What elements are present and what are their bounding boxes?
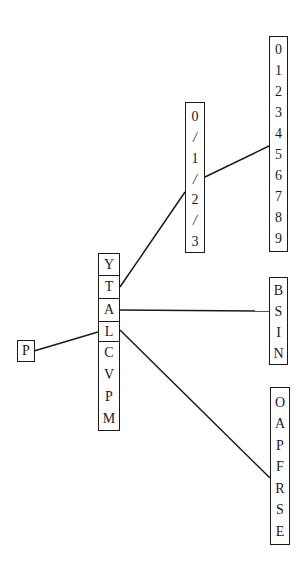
- cell-v: V: [99, 364, 119, 386]
- cell-0: 0: [186, 107, 204, 128]
- cell-digit: 8: [270, 207, 287, 228]
- edge-layer: [0, 0, 304, 576]
- cell-2: 2: [186, 190, 204, 211]
- cell-1: 1: [186, 148, 204, 169]
- cell-digit: 4: [270, 123, 287, 144]
- cell-f: F: [271, 457, 289, 479]
- cell-t: T: [99, 276, 119, 299]
- cell-o: O: [271, 392, 289, 414]
- cell-digit: 2: [270, 81, 287, 102]
- cell-s: S: [271, 500, 289, 522]
- cell-digit: 5: [270, 144, 287, 165]
- cell-b: B: [270, 280, 287, 301]
- node-oapfrse: O A P F R S E: [270, 387, 290, 545]
- cell-p: P: [99, 386, 119, 408]
- node-center-ytalcvpm: Y T A L C V P M: [98, 253, 120, 431]
- cell-a: A: [271, 414, 289, 436]
- cell-s: S: [270, 301, 287, 322]
- cell-digit: 9: [270, 228, 287, 249]
- cell-digit: 7: [270, 186, 287, 207]
- node-hour-0123: 0 / 1 / 2 / 3: [185, 102, 205, 253]
- cell-r: R: [271, 478, 289, 500]
- cell-digit: 3: [270, 102, 287, 123]
- node-bsin: B S I N: [269, 277, 288, 365]
- edge-hour-to-digits: [205, 146, 269, 177]
- cell-p: P: [271, 435, 289, 457]
- edge-t-to-hour: [120, 192, 185, 287]
- cell-slash: /: [186, 169, 204, 190]
- cell-a: A: [99, 299, 119, 322]
- cell-3: 3: [186, 231, 204, 252]
- edge-a-to-bsin: [120, 310, 269, 311]
- cell-c: C: [99, 342, 119, 364]
- tree-diagram: P Y T A L C V P M 0 / 1 / 2 / 3 0 1 2 3 …: [0, 0, 304, 576]
- cell-e: E: [271, 521, 289, 543]
- cell-n: N: [270, 343, 287, 364]
- node-digits-0-9: 0 1 2 3 4 5 6 7 8 9: [269, 36, 288, 252]
- cell-slash: /: [186, 128, 204, 149]
- node-label: P: [18, 341, 34, 361]
- cell-digit: 1: [270, 60, 287, 81]
- edge-l-to-oapfrse: [120, 330, 270, 478]
- cell-digit: 0: [270, 39, 287, 60]
- cell-digit: 6: [270, 165, 287, 186]
- cell-y: Y: [99, 254, 119, 276]
- cell-i: I: [270, 322, 287, 343]
- edge-p-to-l: [34, 332, 98, 351]
- cell-m: M: [99, 408, 119, 430]
- cell-l: L: [99, 322, 119, 342]
- node-root-p: P: [17, 340, 35, 362]
- cell-slash: /: [186, 211, 204, 232]
